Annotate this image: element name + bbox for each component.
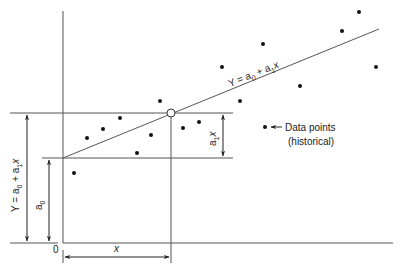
origin-label: 0 — [53, 244, 59, 255]
data-point — [340, 29, 344, 33]
legend-label-line1: Data points — [285, 122, 336, 133]
regression-equation-label: Y = a0 + a1x — [227, 58, 282, 90]
data-point — [118, 116, 122, 120]
data-point — [158, 99, 162, 103]
data-point — [374, 65, 378, 69]
legend-dot — [263, 125, 267, 129]
a1x-label: a1x — [207, 131, 220, 146]
x-label: x — [113, 243, 120, 254]
data-point — [101, 127, 105, 131]
data-point — [357, 10, 361, 14]
y-dimension-label: Y = a0 + a1x — [10, 158, 23, 212]
data-point — [220, 65, 224, 69]
a0-label: a0 — [33, 200, 46, 210]
data-point — [238, 99, 242, 103]
legend: Data points (historical) — [263, 122, 336, 147]
data-points — [72, 10, 378, 175]
data-point — [261, 42, 265, 46]
data-point — [197, 120, 201, 124]
data-point — [85, 136, 89, 140]
data-point — [72, 171, 76, 175]
data-point — [135, 151, 139, 155]
intersection-marker — [167, 109, 175, 117]
data-point — [298, 84, 302, 88]
regression-diagram: Y = a0 + a1x Y = a0 + a1x a0 a1x x 0 Dat… — [0, 0, 400, 273]
data-point — [181, 126, 185, 130]
legend-label-line2: (historical) — [288, 136, 334, 147]
data-point — [149, 133, 153, 137]
